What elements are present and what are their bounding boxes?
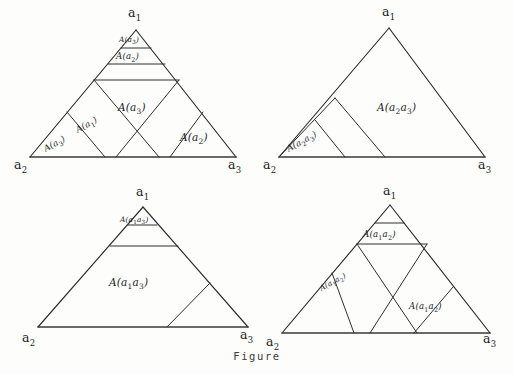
vertex-label-a2: a2 — [22, 332, 35, 347]
region-label-apex-strip: A(a1a3) — [120, 216, 148, 226]
region-label-main: A(a2a3) — [377, 102, 416, 116]
vertex-label-a2: a2 — [263, 159, 276, 174]
triangle-outline-right — [389, 28, 485, 157]
vertex-label-a1: a1 — [136, 186, 149, 201]
figure-canvas: a1 a2 a3 A(a3) A(a2) A(a3) A(a1) A(a3) A… — [0, 0, 514, 374]
panel-top-right: a1 a2 a3 A(a2a3) A(a2a3) — [257, 2, 514, 182]
vertex-label-a2: a2 — [266, 336, 279, 351]
center-left-diagonal — [94, 80, 159, 157]
triangle-diagram-top-right — [257, 2, 514, 182]
center-right-diagonal — [116, 80, 179, 157]
triangle-diagram-bottom-right — [257, 185, 514, 365]
region-label-apex-strip: A(a1a2) — [363, 230, 396, 241]
triangle-outline-right — [143, 207, 248, 327]
vertex-label-a1: a1 — [383, 185, 396, 200]
region-label-main: A(a1a3) — [109, 277, 148, 291]
right-partition-diagonal — [167, 283, 210, 327]
vertex-label-a3: a3 — [240, 329, 253, 344]
center-left-diagonal — [357, 244, 417, 333]
vertex-label-a2: a2 — [14, 159, 27, 174]
vertex-label-a1: a1 — [128, 7, 141, 22]
panel-top-left: a1 a2 a3 A(a3) A(a2) A(a3) A(a1) A(a3) A… — [0, 2, 257, 182]
panel-bottom-right: a1 a2 a3 A(a1a2) A(a1a2) A(a1a2) — [257, 185, 514, 365]
second-diagonal — [315, 120, 345, 157]
region-label-right-corner: A(a2) — [180, 132, 208, 146]
region-label-right-corner: A(a1a2) — [409, 302, 442, 313]
triangle-outline — [30, 30, 136, 157]
triangle-diagram-top-left — [0, 2, 257, 182]
vertex-label-a1: a1 — [382, 6, 395, 21]
region-label-apex-strip-2: A(a2) — [116, 52, 139, 63]
vertex-label-a3: a3 — [228, 159, 241, 174]
figure-caption: Figure — [0, 350, 514, 362]
region-label-center: A(a3) — [118, 102, 146, 116]
triangle-diagram-bottom-left — [0, 185, 257, 365]
triangle-outline-right — [390, 205, 490, 333]
vertex-label-a3: a3 — [478, 159, 491, 174]
panel-bottom-left: a1 a2 a3 A(a1a3) A(a1a3) — [0, 185, 257, 365]
center-right-diagonal — [370, 244, 427, 333]
vertex-label-a3: a3 — [483, 333, 496, 348]
region-label-apex-strip-1: A(a3) — [119, 36, 139, 46]
